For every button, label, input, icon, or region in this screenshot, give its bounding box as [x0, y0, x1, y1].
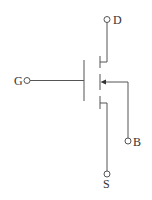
body-terminal-circle	[125, 138, 131, 144]
drain-terminal-circle	[104, 17, 110, 23]
body-arrow-icon	[101, 80, 107, 85]
mosfet-symbol	[0, 0, 152, 200]
source-label: S	[103, 178, 110, 190]
gate-label: G	[14, 75, 23, 87]
body-label: B	[133, 136, 141, 148]
drain-label: D	[113, 14, 122, 26]
gate-terminal-circle	[24, 78, 30, 84]
